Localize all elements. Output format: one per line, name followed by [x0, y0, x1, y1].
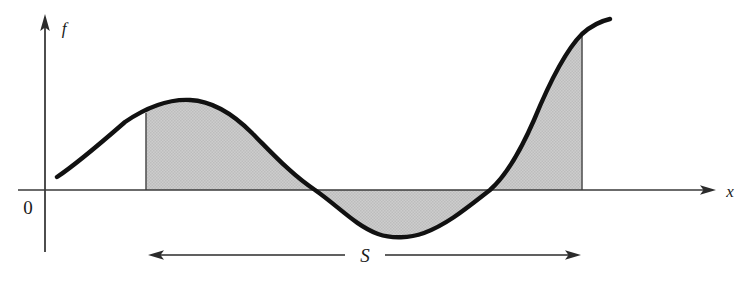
y-axis-label: f [62, 19, 69, 38]
figure-container: f x 0 S [0, 0, 748, 286]
area-under-curve-figure: f x 0 S [0, 0, 748, 286]
interval-label: S [360, 245, 370, 266]
shaded-area-above-axis [40, 100, 315, 190]
shaded-region-S [40, 34, 582, 237]
x-axis-label: x [725, 182, 734, 201]
shaded-area-below-axis [315, 190, 490, 237]
function-curve [57, 19, 610, 237]
origin-label: 0 [23, 197, 33, 218]
